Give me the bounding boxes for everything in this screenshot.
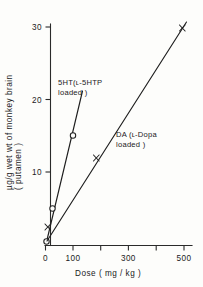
annotation-da: DA (ʟ-Dopa loaded ) xyxy=(116,130,158,149)
y-axis-title-line2: ( putamen ) xyxy=(14,143,23,190)
x-tick-label-500: 500 xyxy=(177,254,192,263)
x-tick-label-0: 0 xyxy=(43,254,48,263)
x-tick-labels: 0 100 300 500 xyxy=(43,254,191,263)
y-tick-label-20: 20 xyxy=(32,96,42,105)
x-tick-marks xyxy=(46,246,185,251)
y-tick-label-10: 10 xyxy=(32,168,42,177)
x-axis-title: Dose ( mg / kg ) xyxy=(75,269,141,278)
annotation-5ht-line2: loaded ) xyxy=(58,88,88,97)
series-5ht-point-2 xyxy=(70,133,75,138)
annotation-5ht: 5HT(ʟ-5HTP loaded ) xyxy=(58,78,102,97)
plot-canvas: 30 20 10 0 100 300 500 Dose ( mg / kg ) … xyxy=(0,0,203,287)
series-da-point-2 xyxy=(180,25,186,31)
series-5ht-line xyxy=(47,91,83,242)
y-tick-label-30: 30 xyxy=(32,23,42,32)
annotation-5ht-line1: 5HT(ʟ-5HTP xyxy=(58,78,102,87)
y-tick-marks xyxy=(46,27,51,172)
x-tick-label-100: 100 xyxy=(66,254,81,263)
series-5ht-point-1 xyxy=(50,206,55,211)
annotation-da-line1: DA (ʟ-Dopa xyxy=(116,130,158,139)
y-tick-labels: 30 20 10 xyxy=(32,23,42,177)
chart-figure: 30 20 10 0 100 300 500 Dose ( mg / kg ) … xyxy=(0,0,203,287)
x-tick-label-300: 300 xyxy=(121,254,136,263)
y-axis-title-line1: µg/g wet wt of monkey brain xyxy=(5,74,14,190)
series-da-point-1 xyxy=(94,155,100,161)
series-5ht xyxy=(44,91,83,244)
annotation-da-line2: loaded ) xyxy=(116,140,146,149)
